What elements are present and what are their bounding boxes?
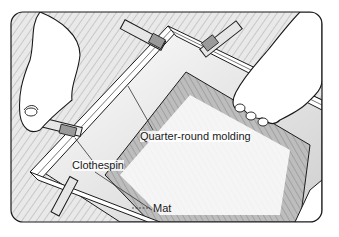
- label-quarter-round-molding: Quarter-round molding: [140, 131, 251, 142]
- label-clothespin: Clothespin: [72, 160, 124, 171]
- label-mat: Mat: [153, 203, 171, 214]
